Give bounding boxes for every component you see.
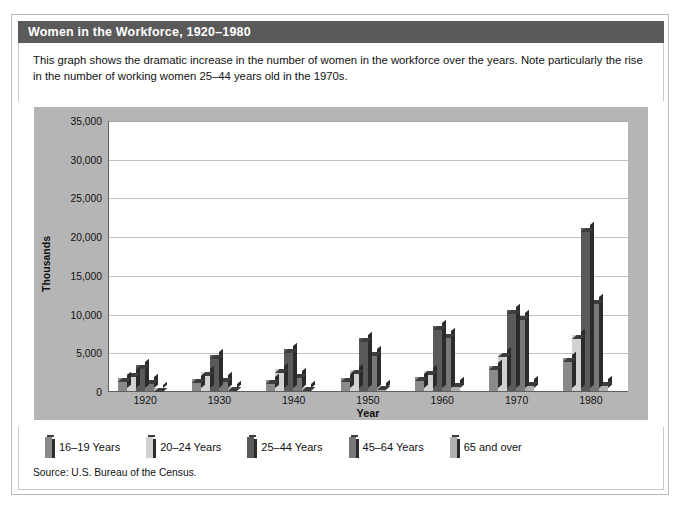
legend-swatch-top	[249, 435, 256, 437]
x-tick-label: 1940	[282, 394, 305, 406]
legend-swatch-top	[351, 435, 358, 437]
bar	[563, 358, 572, 391]
bar	[415, 377, 424, 391]
bar	[192, 379, 201, 391]
source-note: Source: U.S. Bureau of the Census.	[18, 467, 664, 490]
legend-swatch-face	[146, 437, 153, 458]
x-tick-label: 1970	[505, 394, 528, 406]
y-tick-label: 15,000	[71, 270, 103, 281]
y-axis-tick-labels: 05,00010,00015,00020,00025,00030,00035,0…	[34, 107, 108, 392]
x-tick-label: 1930	[208, 394, 231, 406]
figure-panel: Women in the Workforce, 1920–1980 This g…	[11, 14, 669, 495]
legend-label: 65 and over	[464, 441, 522, 453]
x-tick-label: 1960	[431, 394, 454, 406]
bar-side	[302, 368, 306, 388]
legend-swatch	[146, 437, 153, 458]
legend-item: 65 and over	[450, 437, 522, 458]
bar-side	[599, 294, 603, 388]
bar-side	[516, 304, 520, 388]
legend-swatch-top	[148, 435, 155, 437]
legend-swatch	[450, 437, 457, 458]
page-title: Women in the Workforce, 1920–1980	[18, 25, 251, 39]
bar	[118, 378, 127, 391]
x-tick-label: 1980	[579, 394, 602, 406]
bar-side	[525, 310, 529, 388]
legend-swatch-side	[52, 439, 55, 458]
legend-item: 20–24 Years	[146, 437, 221, 458]
bar-side	[442, 320, 446, 388]
chart-legend: 16–19 Years20–24 Years25–44 Years45–64 Y…	[18, 427, 664, 467]
bar-top	[302, 387, 315, 391]
y-tick-label: 30,000	[71, 154, 103, 165]
legend-swatch-side	[457, 439, 460, 458]
bar-side	[163, 381, 167, 388]
bar-series-container	[109, 121, 628, 391]
bar	[266, 380, 275, 391]
legend-swatch-side	[254, 439, 257, 458]
bar	[341, 378, 350, 391]
legend-label: 16–19 Years	[59, 441, 120, 453]
bar	[154, 388, 163, 391]
bar-side	[284, 363, 288, 388]
legend-label: 25–44 Years	[261, 441, 322, 453]
x-tick-label: 1950	[356, 394, 379, 406]
legend-item: 16–19 Years	[45, 437, 120, 458]
legend-swatch-top	[47, 435, 54, 437]
y-tick-label: 10,000	[71, 309, 103, 320]
bar-side	[433, 365, 437, 388]
legend-swatch-top	[452, 435, 459, 437]
legend-swatch-face	[450, 437, 457, 458]
caption-text: This graph shows the dramatic increase i…	[33, 53, 649, 84]
legend-label: 45–64 Years	[363, 441, 424, 453]
y-tick-label: 35,000	[71, 116, 103, 127]
legend-swatch	[349, 437, 356, 458]
legend-label: 20–24 Years	[160, 441, 221, 453]
legend-swatch-side	[356, 439, 359, 458]
bar	[302, 387, 311, 391]
bar-side	[136, 367, 140, 388]
bar-face	[563, 358, 572, 391]
bar-side	[359, 364, 363, 388]
y-tick-label: 20,000	[71, 232, 103, 243]
legend-swatch-face	[349, 437, 356, 458]
legend-swatch-side	[153, 439, 156, 458]
y-tick-label: 25,000	[71, 193, 103, 204]
y-tick-label: 0	[96, 387, 102, 398]
bar-side	[145, 359, 149, 388]
legend-item: 25–44 Years	[247, 437, 322, 458]
legend-swatch-face	[247, 437, 254, 458]
x-axis-title: Year	[108, 407, 628, 419]
legend-item: 45–64 Years	[349, 437, 424, 458]
legend-swatch-face	[45, 437, 52, 458]
bar-side	[590, 222, 594, 388]
plot-area	[108, 121, 628, 392]
bar	[489, 366, 498, 391]
bar-side	[210, 366, 214, 388]
source-text: Source: U.S. Bureau of the Census.	[33, 467, 197, 478]
y-tick-label: 5,000	[76, 348, 102, 359]
bar-side	[498, 360, 502, 388]
legend-swatch	[45, 437, 52, 458]
plot-panel: Thousands 05,00010,00015,00020,00025,000…	[34, 107, 648, 420]
x-tick-label: 1920	[133, 394, 156, 406]
legend-swatch	[247, 437, 254, 458]
bar-top	[228, 387, 241, 391]
chart-title-bar: Women in the Workforce, 1920–1980	[18, 21, 664, 43]
bar	[228, 387, 237, 391]
caption-block: This graph shows the dramatic increase i…	[18, 43, 664, 101]
